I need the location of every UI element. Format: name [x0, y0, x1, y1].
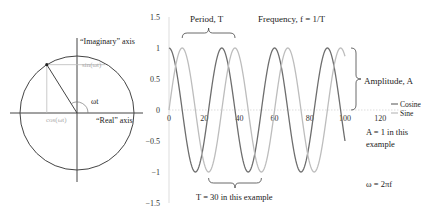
sin-label: sin(ωt)	[82, 61, 102, 69]
waveform-chart: 1.510.50−0.5−1−1.5 020406080100120 Perio…	[145, 13, 421, 208]
y-tick-label: −1.5	[145, 199, 160, 208]
x-tick-label: 120	[374, 114, 386, 123]
amplitude-example-line1: A = 1 in this	[366, 127, 408, 137]
frequency-label: Frequency, f = 1/T	[258, 14, 325, 24]
legend: Cosine Sine	[391, 100, 422, 118]
legend-cosine-label: Cosine	[400, 100, 422, 109]
period-brace	[182, 28, 235, 38]
period-example-label: T = 30 in this example	[196, 192, 273, 202]
imaginary-axis-label: “Imaginary” axis	[80, 37, 135, 46]
y-tick-labels: 1.510.50−0.5−1−1.5	[145, 13, 160, 208]
amplitude-label: Amplitude, A	[364, 76, 413, 86]
amplitude-brace	[351, 48, 361, 110]
y-tick-label: 0.5	[150, 75, 160, 84]
y-tick-label: 1	[156, 44, 160, 53]
period-example-brace	[209, 178, 262, 188]
amplitude-example-line2: example	[366, 139, 395, 149]
y-tick-label: −1	[151, 168, 160, 177]
x-tick-label: 0	[167, 114, 171, 123]
y-tick-label: 0	[156, 106, 160, 115]
phasor-point	[45, 63, 48, 66]
angle-label: ωt	[91, 97, 99, 106]
cos-label: cos(ωt)	[46, 116, 67, 124]
real-axis-label: “Real” axis	[96, 116, 133, 125]
y-tick-label: −0.5	[145, 137, 160, 146]
legend-sine-label: Sine	[400, 109, 414, 118]
x-tick-labels: 020406080100120	[167, 114, 386, 123]
y-tick-label: 1.5	[150, 13, 160, 22]
figure: “Imaginary” axis “Real” axis ωt cos(ωt) …	[0, 0, 431, 220]
period-label: Period, T	[190, 14, 224, 24]
unit-circle-diagram: “Imaginary” axis “Real” axis ωt cos(ωt) …	[10, 37, 143, 182]
x-tick-label: 60	[271, 114, 279, 123]
omega-formula: ω = 2πf	[366, 179, 392, 189]
radius-vector	[47, 65, 77, 113]
